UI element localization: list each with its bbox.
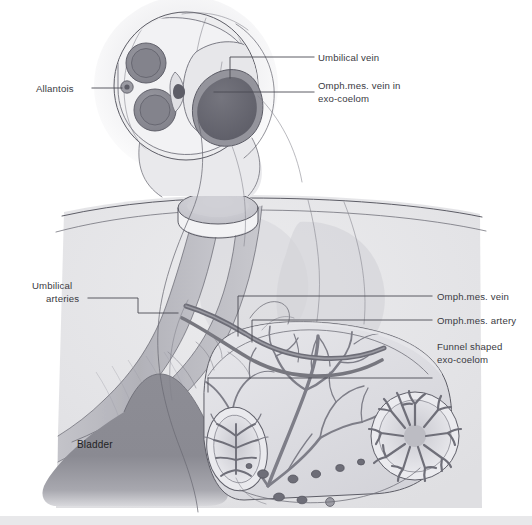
umbilical-artery-upper xyxy=(126,43,166,83)
anatomy-illustration: Bladder xyxy=(0,0,532,525)
label-omph-vein-exocoelom-line2: exo-coelom xyxy=(318,93,369,104)
label-omph-vein-exocoelom-line1: Omph.mes. vein in xyxy=(318,80,401,91)
label-allantois: Allantois xyxy=(36,83,74,94)
allantois-shape xyxy=(121,81,133,93)
label-umbilical-arteries-line2: arteries xyxy=(46,293,79,304)
bladder-label: Bladder xyxy=(77,439,113,450)
label-omph-vein: Omph.mes. vein xyxy=(437,291,509,302)
bottom-border xyxy=(0,516,532,525)
umbilical-artery-lower xyxy=(134,89,176,131)
label-funnel-exocoelom-line1: Funnel shaped xyxy=(437,341,502,352)
label-funnel-exocoelom-line2: exo-coelom xyxy=(437,354,488,365)
label-umbilical-vein: Umbilical vein xyxy=(318,52,379,63)
label-omph-artery: Omph.mes. artery xyxy=(437,315,516,326)
label-umbilical-arteries-line1: Umbilical xyxy=(32,280,72,291)
diagram-canvas: Bladder xyxy=(0,0,532,525)
umbilical-ring xyxy=(178,191,258,238)
